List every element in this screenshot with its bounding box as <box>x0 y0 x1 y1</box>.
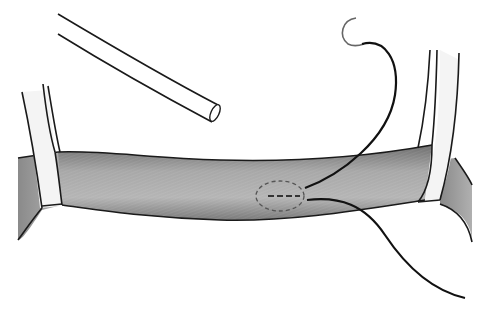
vessel-illustration <box>0 0 481 315</box>
illustration-canvas <box>0 0 481 315</box>
catheter-tube <box>58 14 222 123</box>
blood-vessel <box>58 145 432 220</box>
